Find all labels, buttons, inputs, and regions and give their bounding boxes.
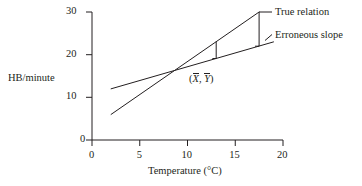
y-axis-title: HB/minute (8, 73, 55, 84)
x-axis-title: Temperature (°C) (148, 166, 222, 177)
mean-paren-close: ) (210, 73, 214, 84)
x-tick-label-20: 20 (277, 150, 288, 161)
y-tick-label-30: 30 (66, 6, 77, 17)
y-tick-label-0: 0 (80, 134, 85, 145)
annotation-true-relation: True relation (275, 7, 329, 18)
chart-figure: 30 20 10 0 0 5 10 15 20 HB/minute Temper… (0, 0, 362, 186)
x-tick-label-5: 5 (137, 150, 142, 161)
x-tick-label-0: 0 (89, 150, 94, 161)
mean-x-bar: X (193, 74, 199, 85)
leader-line-erroneous-slope (265, 35, 272, 41)
mean-point-annotation: (X, Y) (189, 74, 214, 85)
x-tick-label-15: 15 (229, 150, 240, 161)
annotation-erroneous-slope: Erroneous slope (275, 30, 343, 41)
x-tick-label-10: 10 (182, 150, 193, 161)
y-tick-label-20: 20 (66, 49, 77, 60)
y-tick-label-10: 10 (66, 91, 77, 102)
x-axis-ticks (92, 140, 283, 146)
mean-y-bar: Y (204, 74, 210, 85)
y-axis-ticks (86, 12, 92, 140)
series-line-true-relation (111, 12, 259, 114)
